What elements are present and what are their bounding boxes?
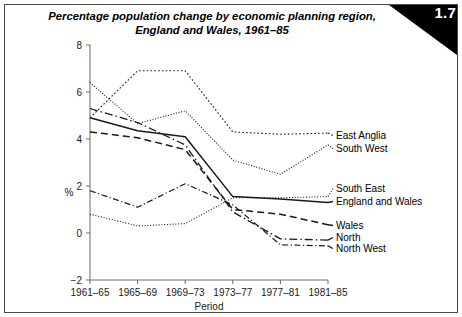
series-line-east-anglia — [90, 71, 328, 135]
leader-south-east — [328, 189, 333, 197]
series-line-south-west — [90, 83, 328, 175]
y-axis-title: % — [65, 187, 74, 198]
x-tick-label: 1965–69 — [118, 287, 157, 298]
y-tick-label: 4 — [76, 134, 82, 145]
y-axis-ticks: −202468 — [71, 40, 90, 286]
x-axis-title: Period — [195, 301, 224, 312]
leader-north — [328, 238, 333, 241]
y-tick-label: 0 — [76, 228, 82, 239]
leader-wales — [328, 225, 333, 226]
leader-england-and-wales — [328, 202, 333, 203]
legend-label-england-and-wales: England and Wales — [336, 196, 422, 207]
x-tick-label: 1977–81 — [261, 287, 300, 298]
legend-label-east-anglia: East Anglia — [336, 130, 386, 141]
legend-labels: East AngliaSouth WestSouth EastEngland a… — [336, 130, 422, 254]
chart-plot: −202468 1961–651965–691969–731973–771977… — [0, 0, 462, 317]
x-tick-label: 1973–77 — [213, 287, 252, 298]
series-line-north-west — [90, 184, 328, 246]
legend-label-wales: Wales — [336, 220, 363, 231]
leader-south-west — [328, 145, 333, 149]
series-line-south-east — [90, 197, 328, 226]
figure-container: 1.7 Percentage population change by econ… — [0, 0, 462, 317]
x-axis-ticks: 1961–651965–691969–731973–771977–811981–… — [71, 280, 348, 298]
x-tick-label: 1969–73 — [166, 287, 205, 298]
x-tick-label: 1981–85 — [309, 287, 348, 298]
y-tick-label: −2 — [71, 275, 83, 286]
legend-label-south-east: South East — [336, 183, 385, 194]
axes — [90, 45, 328, 280]
legend-leader-lines — [328, 133, 333, 248]
data-series-group — [90, 71, 328, 246]
legend-label-north-west: North West — [336, 243, 386, 254]
y-tick-label: 2 — [76, 181, 82, 192]
leader-east-anglia — [328, 133, 333, 135]
x-tick-label: 1961–65 — [71, 287, 110, 298]
y-tick-label: 6 — [76, 87, 82, 98]
leader-north-west — [328, 246, 333, 249]
legend-label-north: North — [336, 232, 360, 243]
y-tick-label: 8 — [76, 40, 82, 51]
legend-label-south-west: South West — [336, 143, 388, 154]
series-line-england-and-wales — [90, 118, 328, 203]
